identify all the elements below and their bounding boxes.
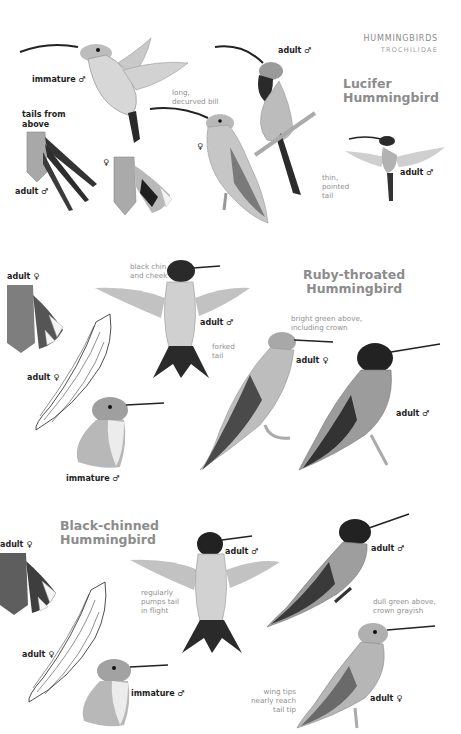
label-black-chinned-tail-adult-female: adult ♀	[0, 540, 32, 549]
note-line-1: dull green above,	[373, 597, 436, 606]
label-black-chinned-wing-adult-female: adult ♀	[22, 650, 54, 659]
label-ruby-flying-male: adult ♂	[200, 318, 233, 327]
title-line-2: Hummingbird	[303, 282, 405, 296]
note-line-3: tail tip	[236, 705, 296, 714]
label-black-chinned-flying-male: adult ♂	[225, 547, 258, 556]
title-line-2: Hummingbird	[343, 91, 439, 105]
lucifer-flying-male-illustration	[345, 133, 450, 203]
label-lucifer-perched-male: adult ♂	[278, 46, 311, 55]
label-lucifer-tail-female: ♀	[103, 158, 109, 167]
label-lucifer-perched-female: ♀	[197, 142, 203, 151]
title-line-1: Ruby-throated	[303, 268, 405, 282]
note-line-1: regularly	[141, 588, 179, 597]
label-tails-from-above: tails from above	[22, 110, 66, 130]
note-line-3: in flight	[141, 606, 179, 615]
note-black-chinned-wing-tips: wing tips nearly reach tail tip	[236, 687, 296, 714]
note-line-1: wing tips	[236, 687, 296, 696]
label-lucifer-flying-male: adult ♂	[400, 168, 433, 177]
label-ruby-immature-male: immature ♂	[66, 474, 120, 483]
note-lucifer-bill: long, decurved bill	[172, 88, 219, 106]
title-line-1: Lucifer	[343, 77, 439, 91]
note-line-2: nearly reach	[236, 696, 296, 705]
label-lucifer-immature-male: immature ♂	[32, 75, 86, 84]
note-line-2: pumps tail	[141, 597, 179, 606]
label-ruby-tail-adult-female: adult ♀	[7, 272, 39, 281]
ruby-immature-male-illustration	[72, 392, 167, 472]
note-line-1: bright green above,	[291, 314, 362, 323]
tails-line-2: above	[22, 120, 66, 130]
note-line-1: long,	[172, 88, 219, 97]
black-chinned-perched-female-illustration	[295, 620, 440, 730]
label-black-chinned-immature-male: immature ♂	[131, 689, 185, 698]
lucifer-perched-male-illustration	[215, 45, 305, 195]
note-line-2: decurved bill	[172, 97, 219, 106]
label-lucifer-tail-adult-male: adult ♂	[15, 187, 48, 196]
label-ruby-perched-male: adult ♂	[396, 409, 429, 418]
ruby-perched-male-illustration	[295, 340, 445, 475]
label-black-chinned-perched-male: adult ♂	[371, 544, 404, 553]
note-line-2: crown grayish	[373, 606, 436, 615]
species-title-ruby-throated: Ruby-throated Hummingbird	[303, 268, 405, 296]
note-black-chinned-crown: dull green above, crown grayish	[373, 597, 436, 615]
species-title-lucifer: Lucifer Hummingbird	[343, 77, 439, 105]
page-header-family: HUMMINGBIRDS	[288, 34, 438, 43]
tails-line-1: tails from	[22, 110, 66, 120]
label-black-chinned-perched-female: adult ♀	[370, 694, 402, 703]
note-black-chinned-pumps-tail: regularly pumps tail in flight	[141, 588, 179, 615]
lucifer-tail-adult-male-illustration	[25, 132, 100, 212]
